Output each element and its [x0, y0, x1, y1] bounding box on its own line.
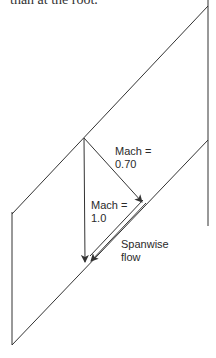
- mach-070-label-line2: 0.70: [115, 158, 151, 171]
- mach-070-label: Mach = 0.70: [115, 145, 151, 171]
- mach-1-arrow: [84, 138, 85, 262]
- wing-lower-edge: [12, 140, 208, 345]
- mach-1-label: Mach = 1.0: [91, 199, 127, 225]
- mach-1-label-line1: Mach =: [91, 199, 127, 212]
- swept-wing-diagram: [0, 0, 216, 358]
- mach-070-label-line1: Mach =: [115, 145, 151, 158]
- spanwise-flow-label-line1: Spanwise: [121, 238, 169, 251]
- spanwise-flow-label: Spanwise flow: [121, 238, 169, 264]
- wing-leading-edge: [12, 6, 208, 214]
- mach-1-label-line2: 1.0: [91, 212, 127, 225]
- spanwise-flow-label-line2: flow: [121, 251, 169, 264]
